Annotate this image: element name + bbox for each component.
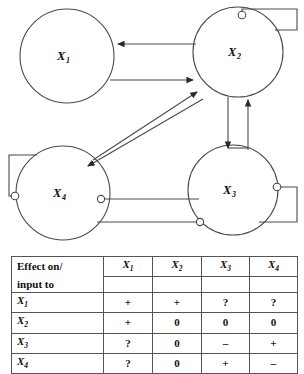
table-header-spacer-3 (202, 277, 250, 293)
node-x4-subscript: 4 (61, 193, 66, 202)
node-x3-label: X (222, 183, 232, 197)
col-header-x4-sub: 4 (275, 264, 279, 273)
col-header-x2-base: X (171, 258, 178, 270)
table-row: X4 ? 0 + – (12, 353, 298, 373)
table-header-row-1: Effect on/ X1 X2 X3 X4 (12, 257, 298, 277)
table-col-header-x3: X3 (202, 257, 250, 277)
table-row-header-x3: X3 (12, 333, 104, 353)
node-x2-label: X (227, 45, 237, 59)
row-header-x3-sub: 3 (24, 341, 28, 350)
table-row: X1 + + ? ? (12, 293, 298, 313)
effect-sign-table: Effect on/ X1 X2 X3 X4 input to (11, 256, 298, 374)
col-header-x3-sub: 3 (227, 264, 231, 273)
table-cell: 0 (202, 313, 250, 333)
edge-x4-to-x2-positive[interactable] (93, 92, 197, 160)
table-cell: + (202, 353, 250, 373)
table-cell: ? (250, 293, 298, 313)
node-x1-label: X (56, 49, 66, 63)
table-header-row-2: input to (12, 277, 298, 293)
edge-x4-self-loop-terminal-circle (11, 192, 19, 200)
node-x2[interactable]: X 2 (193, 7, 283, 97)
table-cell: 0 (153, 333, 202, 353)
table-cell: – (202, 333, 250, 353)
table-cell: + (104, 313, 153, 333)
table-header-spacer-1 (104, 277, 153, 293)
table-cell: + (104, 293, 153, 313)
row-header-x2-sub: 2 (24, 321, 28, 330)
table-row-header-x1: X1 (12, 293, 104, 313)
row-header-x1-sub: 1 (24, 300, 28, 309)
node-x1[interactable]: X 1 (20, 9, 114, 103)
table-col-header-x2: X2 (153, 257, 202, 277)
table-cell: ? (202, 293, 250, 313)
col-header-x1-sub: 1 (130, 264, 134, 273)
table-corner-line1: Effect on/ (12, 257, 104, 277)
table-row: X2 + 0 0 0 (12, 313, 298, 333)
table-cell: + (250, 333, 298, 353)
node-x1-subscript: 1 (66, 56, 70, 65)
signed-digraph-diagram: X 1 X 2 X 3 X 4 (0, 0, 304, 250)
edge-x2-to-x4-positive[interactable] (88, 99, 203, 166)
table-cell: 0 (250, 313, 298, 333)
edge-x4-to-x3-negative-terminal-circle (97, 195, 104, 202)
row-header-x4-sub: 4 (24, 361, 28, 370)
table-cell: ? (104, 333, 153, 353)
node-x2-subscript: 2 (236, 52, 241, 61)
table-corner-line2: input to (12, 277, 104, 293)
table-col-header-x1: X1 (104, 257, 153, 277)
col-header-x2-sub: 2 (179, 264, 183, 273)
table-cell: 0 (153, 313, 202, 333)
edge-x3-self-loop-terminal-circle (273, 183, 281, 191)
node-x3-subscript: 3 (231, 190, 236, 199)
table-cell: ? (104, 353, 153, 373)
edge-x3-to-x4-negative-terminal-circle (196, 218, 203, 225)
table-row-header-x4: X4 (12, 353, 104, 373)
table-row-header-x2: X2 (12, 313, 104, 333)
table-cell: 0 (153, 353, 202, 373)
table-row: X3 ? 0 – + (12, 333, 298, 353)
table-cell: – (250, 353, 298, 373)
diagram-canvas: X 1 X 2 X 3 X 4 (0, 0, 304, 250)
table-col-header-x4: X4 (250, 257, 298, 277)
table-header-spacer-2 (153, 277, 202, 293)
edge-x2-self-loop-terminal-circle (238, 11, 246, 19)
table-cell: + (153, 293, 202, 313)
node-x4[interactable]: X 4 (16, 146, 110, 240)
col-header-x1-base: X (122, 258, 129, 270)
node-x4-label: X (52, 186, 62, 200)
table-header-spacer-4 (250, 277, 298, 293)
